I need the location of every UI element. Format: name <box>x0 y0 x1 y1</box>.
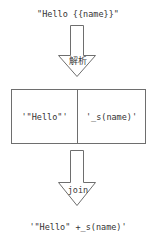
down-arrow-icon <box>57 25 97 78</box>
token-cell-interpolation: '_s(name)' <box>77 90 145 143</box>
parse-arrow-label: 解析 <box>0 57 156 66</box>
parse-arrow <box>57 25 97 78</box>
down-arrow-icon <box>57 150 97 207</box>
result-expression: '"Hello" +_s(name)' <box>0 222 156 233</box>
join-arrow-label: join <box>0 186 156 195</box>
parse-join-diagram: "Hello {{name}}" 解析 '"Hello"' '_s(name)'… <box>0 0 156 242</box>
token-box: '"Hello"' '_s(name)' <box>11 89 146 144</box>
source-template-expression: "Hello {{name}}" <box>0 9 156 20</box>
join-arrow <box>57 150 97 207</box>
token-cell-literal: '"Hello"' <box>12 90 77 143</box>
